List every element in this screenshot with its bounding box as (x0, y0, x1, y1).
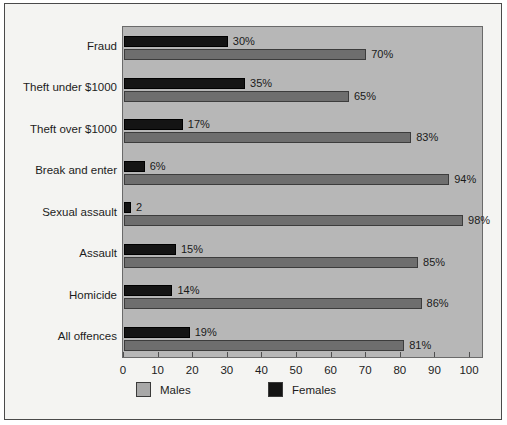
legend-item: Males (136, 382, 191, 397)
category-label: Break and enter (5, 164, 117, 176)
bar-value-females: 30% (233, 36, 255, 47)
bar-males (124, 215, 463, 226)
category-label: All offences (5, 330, 117, 342)
x-tick-mark (434, 352, 435, 357)
bar-males (124, 340, 404, 351)
bar-females (124, 36, 228, 47)
bar-females (124, 327, 190, 338)
bar-group: 30%70% (123, 27, 482, 69)
bar-males (124, 257, 418, 268)
bar-value-males: 65% (354, 91, 376, 102)
bar-value-females: 19% (195, 327, 217, 338)
x-tick-label: 10 (151, 364, 164, 376)
bar-females (124, 285, 172, 296)
bar-males (124, 298, 422, 309)
bar-females (124, 202, 131, 213)
bar-value-females: 17% (188, 119, 210, 130)
bar-males (124, 91, 349, 102)
x-tick-mark (400, 352, 401, 357)
chart-screenshot: FraudTheft under $1000Theft over $1000Br… (0, 0, 507, 425)
legend-label: Males (160, 384, 191, 396)
plot-area: 30%70%35%65%17%83%6%94%298%15%85%14%86%1… (122, 26, 483, 358)
x-tick-label: 100 (459, 364, 478, 376)
bar-females (124, 161, 145, 172)
bar-females (124, 244, 176, 255)
x-tick-mark (469, 352, 470, 357)
bar-value-females: 6% (150, 161, 166, 172)
bar-females (124, 119, 183, 130)
bar-females (124, 78, 245, 89)
x-tick-mark (158, 352, 159, 357)
x-tick-mark (192, 352, 193, 357)
x-tick-label: 40 (255, 364, 268, 376)
legend-item: Females (268, 382, 336, 397)
bars-layer: 30%70%35%65%17%83%6%94%298%15%85%14%86%1… (123, 27, 482, 357)
x-tick-mark (296, 352, 297, 357)
figure-frame: FraudTheft under $1000Theft over $1000Br… (4, 3, 502, 420)
bar-value-males: 70% (371, 49, 393, 60)
x-tick-label: 90 (428, 364, 441, 376)
x-tick-label: 50 (290, 364, 303, 376)
bar-group: 35%65% (123, 69, 482, 111)
bar-value-females: 15% (181, 244, 203, 255)
bar-value-males: 81% (409, 340, 431, 351)
bar-group: 15%85% (123, 235, 482, 277)
bar-males (124, 132, 411, 143)
x-tick-label: 20 (186, 364, 199, 376)
bar-value-males: 83% (416, 132, 438, 143)
bar-value-males: 86% (427, 298, 449, 309)
x-tick-mark (261, 352, 262, 357)
bar-males (124, 49, 366, 60)
x-tick-mark (227, 352, 228, 357)
category-label: Theft under $1000 (5, 81, 117, 93)
x-tick-mark (331, 352, 332, 357)
legend-label: Females (292, 384, 336, 396)
bar-group: 6%94% (123, 152, 482, 194)
bar-value-females: 35% (250, 78, 272, 89)
x-tick-mark (123, 352, 124, 357)
category-label: Theft over $1000 (5, 123, 117, 135)
bar-value-males: 94% (454, 174, 476, 185)
x-tick-label: 30 (220, 364, 233, 376)
x-tick-label: 0 (120, 364, 126, 376)
bar-group: 14%86% (123, 276, 482, 318)
bar-group: 298% (123, 193, 482, 235)
legend-swatch (268, 382, 283, 397)
category-label: Assault (5, 247, 117, 259)
bar-group: 17%83% (123, 110, 482, 152)
category-label: Fraud (5, 40, 117, 52)
bar-value-males: 85% (423, 257, 445, 268)
bar-group: 19%81% (123, 318, 482, 360)
bar-value-females: 14% (177, 285, 199, 296)
bar-value-males: 98% (468, 215, 490, 226)
x-tick-mark (365, 352, 366, 357)
category-label: Homicide (5, 289, 117, 301)
category-label: Sexual assault (5, 206, 117, 218)
legend-swatch (136, 382, 151, 397)
bar-males (124, 174, 449, 185)
bar-value-females: 2 (136, 202, 142, 213)
x-tick-label: 80 (393, 364, 406, 376)
x-tick-label: 60 (324, 364, 337, 376)
x-tick-label: 70 (359, 364, 372, 376)
